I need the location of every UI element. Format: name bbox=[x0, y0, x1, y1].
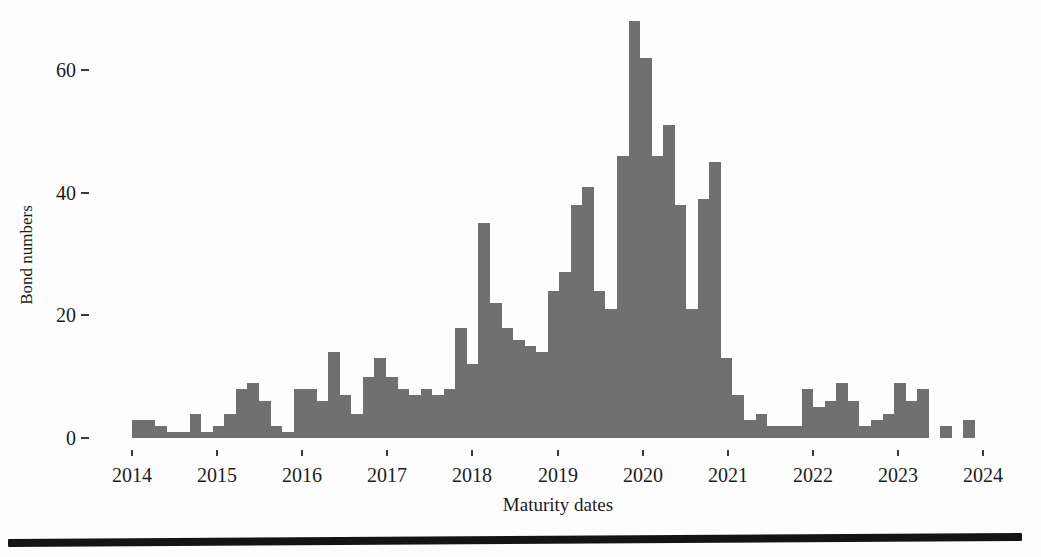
y-tick-label: 60 bbox=[36, 59, 76, 81]
histogram-bar bbox=[906, 401, 918, 438]
x-tick-label: 2024 bbox=[951, 464, 1015, 486]
histogram-bar bbox=[582, 187, 594, 438]
histogram-bar bbox=[594, 291, 606, 438]
y-axis-title: Bond numbers bbox=[17, 155, 39, 355]
histogram-bar bbox=[259, 401, 271, 438]
bars-container bbox=[132, 0, 975, 438]
histogram-bar bbox=[883, 414, 895, 439]
histogram-bar bbox=[813, 407, 825, 438]
histogram-bar bbox=[536, 352, 548, 438]
histogram-bar bbox=[779, 426, 791, 438]
histogram-bar bbox=[871, 420, 883, 438]
histogram-bar bbox=[698, 199, 710, 438]
histogram-bar bbox=[732, 395, 744, 438]
histogram-bar bbox=[201, 432, 213, 438]
x-tick-label: 2015 bbox=[185, 464, 249, 486]
x-tick-label: 2017 bbox=[355, 464, 419, 486]
x-tick-mark bbox=[897, 450, 899, 456]
y-tick-label: 40 bbox=[36, 182, 76, 204]
histogram-bar bbox=[652, 156, 664, 438]
histogram-bar bbox=[224, 414, 236, 439]
histogram-bar bbox=[548, 291, 560, 438]
histogram-bar bbox=[894, 383, 906, 438]
histogram-bar bbox=[490, 303, 502, 438]
histogram-figure: 0204060 20142015201620172018201920202021… bbox=[0, 0, 1041, 557]
plot-area: 0204060 20142015201620172018201920202021… bbox=[0, 0, 1041, 557]
histogram-bar bbox=[317, 401, 329, 438]
histogram-bar bbox=[502, 328, 514, 438]
histogram-bar bbox=[236, 389, 248, 438]
histogram-bar bbox=[744, 420, 756, 438]
histogram-bar bbox=[294, 389, 306, 438]
x-tick-mark bbox=[642, 450, 644, 456]
histogram-bar bbox=[455, 328, 467, 438]
histogram-bar bbox=[675, 205, 687, 438]
histogram-bar bbox=[859, 426, 871, 438]
x-tick-label: 2020 bbox=[611, 464, 675, 486]
histogram-bar bbox=[340, 395, 352, 438]
histogram-bar bbox=[825, 401, 837, 438]
x-tick-label: 2021 bbox=[696, 464, 760, 486]
x-tick-mark bbox=[812, 450, 814, 456]
histogram-bar bbox=[305, 389, 317, 438]
histogram-bar bbox=[467, 364, 479, 438]
histogram-bar bbox=[767, 426, 779, 438]
histogram-bar bbox=[190, 414, 202, 439]
x-tick-label: 2018 bbox=[440, 464, 504, 486]
y-tick-mark bbox=[81, 314, 89, 316]
histogram-bar bbox=[409, 395, 421, 438]
y-tick-label: 20 bbox=[36, 304, 76, 326]
y-tick-mark bbox=[81, 192, 89, 194]
histogram-bar bbox=[802, 389, 814, 438]
histogram-bar bbox=[559, 272, 571, 438]
histogram-bar bbox=[478, 223, 490, 438]
histogram-bar bbox=[686, 309, 698, 438]
histogram-bar bbox=[917, 389, 929, 438]
x-axis-title: Maturity dates bbox=[428, 494, 688, 516]
histogram-bar bbox=[756, 414, 768, 439]
histogram-bar bbox=[848, 401, 860, 438]
histogram-bar bbox=[155, 426, 167, 438]
histogram-bar bbox=[282, 432, 294, 438]
x-tick-mark bbox=[131, 450, 133, 456]
histogram-bar bbox=[144, 420, 156, 438]
x-tick-mark bbox=[216, 450, 218, 456]
histogram-bar bbox=[663, 125, 675, 438]
histogram-bar bbox=[836, 383, 848, 438]
histogram-bar bbox=[386, 377, 398, 438]
histogram-bar bbox=[398, 389, 410, 438]
x-tick-mark bbox=[557, 450, 559, 456]
histogram-bar bbox=[963, 420, 975, 438]
histogram-bar bbox=[178, 432, 190, 438]
histogram-bar bbox=[328, 352, 340, 438]
histogram-bar bbox=[421, 389, 433, 438]
y-tick-mark bbox=[81, 69, 89, 71]
histogram-bar bbox=[271, 426, 283, 438]
x-tick-label: 2016 bbox=[270, 464, 334, 486]
histogram-bar bbox=[709, 162, 721, 438]
histogram-bar bbox=[571, 205, 583, 438]
histogram-bar bbox=[432, 395, 444, 438]
x-tick-mark bbox=[386, 450, 388, 456]
histogram-bar bbox=[374, 358, 386, 438]
x-tick-mark bbox=[982, 450, 984, 456]
x-tick-label: 2019 bbox=[526, 464, 590, 486]
x-tick-label: 2023 bbox=[866, 464, 930, 486]
histogram-bar bbox=[525, 346, 537, 438]
histogram-bar bbox=[351, 414, 363, 439]
histogram-bar bbox=[363, 377, 375, 438]
x-tick-mark bbox=[471, 450, 473, 456]
histogram-bar bbox=[790, 426, 802, 438]
x-tick-label: 2014 bbox=[100, 464, 164, 486]
x-tick-mark bbox=[301, 450, 303, 456]
histogram-bar bbox=[640, 58, 652, 438]
histogram-bar bbox=[513, 340, 525, 438]
histogram-bar bbox=[132, 420, 144, 438]
histogram-bar bbox=[617, 156, 629, 438]
histogram-bar bbox=[605, 309, 617, 438]
histogram-bar bbox=[167, 432, 179, 438]
y-tick-label: 0 bbox=[36, 427, 76, 449]
x-tick-mark bbox=[727, 450, 729, 456]
histogram-bar bbox=[629, 21, 641, 438]
histogram-bar bbox=[444, 389, 456, 438]
